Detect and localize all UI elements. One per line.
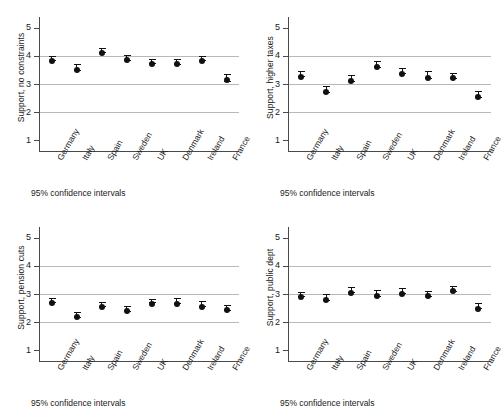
x-axis-category-label: France [481, 134, 503, 162]
plot-area: 12345GermanyItalySpainSwedenUKDenmarkIre… [288, 230, 491, 358]
point-marker [174, 61, 180, 67]
gridline [288, 294, 491, 295]
panel-support-pension-cuts: Support, pension cuts 12345GermanyItalyS… [0, 210, 248, 420]
point-marker [323, 297, 329, 303]
x-axis-category-label: Germany [55, 127, 81, 162]
point-marker [475, 306, 481, 312]
gridline [288, 322, 491, 323]
gridline [288, 56, 491, 57]
error-bar-cap-upper [74, 312, 81, 313]
error-bar-cap-upper [399, 68, 406, 69]
error-bar-cap-upper [475, 91, 482, 92]
point-marker [174, 301, 180, 307]
y-tick-mark [34, 112, 39, 113]
error-bar-cap-upper [149, 59, 156, 60]
error-bar-cap-upper [199, 56, 206, 57]
x-axis-category-label: Denmark [180, 337, 206, 372]
y-tick-label: 5 [266, 233, 280, 242]
y-tick-label: 3 [17, 290, 31, 299]
y-tick-mark [283, 140, 288, 141]
x-axis-category-label: Sweden [130, 130, 154, 162]
y-tick-mark [283, 322, 288, 323]
y-tick-label: 4 [17, 51, 31, 60]
point-marker [199, 58, 205, 64]
y-axis-line [39, 17, 40, 151]
x-axis-category-label: Sweden [380, 130, 404, 162]
y-tick-mark [34, 28, 39, 29]
plot-area: 12345GermanyItalySpainSwedenUKDenmarkIre… [288, 20, 491, 148]
panel-support-no-constraints: Support, no constraints 12345GermanyItal… [0, 0, 248, 210]
point-marker [224, 77, 230, 83]
y-tick-label: 1 [266, 346, 280, 355]
error-bar-cap-upper [99, 48, 106, 49]
panel-caption: 95% confidence intervals [31, 188, 126, 199]
point-marker [348, 78, 354, 84]
point-marker [149, 301, 155, 307]
y-tick-mark [34, 56, 39, 57]
point-marker [124, 308, 130, 314]
x-axis-category-label: UK [155, 147, 170, 162]
x-axis-category-label: Italy [80, 353, 96, 372]
y-tick-label: 2 [266, 318, 280, 327]
error-bar-cap-upper [323, 86, 330, 87]
y-tick-mark [34, 266, 39, 267]
point-marker [399, 71, 405, 77]
error-bar-cap-upper [174, 298, 181, 299]
error-bar-cap-upper [298, 71, 305, 72]
error-bar-cap-upper [374, 61, 381, 62]
panel-caption: 95% confidence intervals [280, 398, 375, 409]
x-axis-category-label: Italy [329, 353, 345, 372]
gridline [39, 294, 239, 295]
error-bar-cap-upper [425, 291, 432, 292]
x-axis-category-label: Denmark [180, 127, 206, 162]
x-axis-category-label: Germany [304, 127, 330, 162]
point-marker [199, 304, 205, 310]
y-tick-mark [283, 56, 288, 57]
point-marker [124, 57, 130, 63]
y-tick-mark [283, 350, 288, 351]
x-axis-category-label: UK [405, 357, 420, 372]
error-bar-cap-upper [224, 74, 231, 75]
point-marker [450, 75, 456, 81]
x-axis-category-label: Ireland [456, 344, 478, 372]
panel-caption: 95% confidence intervals [280, 188, 375, 199]
point-marker [49, 300, 55, 306]
x-axis-category-label: Sweden [130, 340, 154, 372]
x-axis-category-label: Ireland [456, 134, 478, 162]
y-tick-mark [34, 84, 39, 85]
point-marker [99, 304, 105, 310]
x-axis-category-label: UK [155, 357, 170, 372]
point-marker [49, 58, 55, 64]
gridline [39, 112, 239, 113]
error-bar-cap-upper [374, 290, 381, 291]
point-marker [298, 294, 304, 300]
gridline [288, 266, 491, 267]
y-tick-label: 1 [17, 346, 31, 355]
x-axis-category-label: UK [405, 147, 420, 162]
y-tick-mark [283, 28, 288, 29]
point-marker [475, 94, 481, 100]
x-axis-category-label: Denmark [431, 337, 457, 372]
y-tick-mark [283, 112, 288, 113]
plot-area: 12345GermanyItalySpainSwedenUKDenmarkIre… [39, 20, 239, 148]
y-tick-mark [34, 140, 39, 141]
y-tick-label: 1 [266, 136, 280, 145]
x-axis-category-label: France [481, 344, 503, 372]
y-tick-label: 4 [17, 261, 31, 270]
error-bar-cap-upper [298, 292, 305, 293]
gridline [288, 84, 491, 85]
y-axis-line [288, 17, 289, 151]
y-tick-mark [283, 84, 288, 85]
point-marker [399, 291, 405, 297]
x-axis-category-label: Ireland [205, 344, 227, 372]
point-marker [298, 74, 304, 80]
point-marker [74, 67, 80, 73]
gridline [39, 56, 239, 57]
point-marker [425, 293, 431, 299]
panel-support-public-dept: Support, public dept 12345GermanyItalySp… [249, 210, 497, 420]
error-bar-cap-upper [425, 71, 432, 72]
x-axis-category-label: Ireland [205, 134, 227, 162]
y-axis-line [39, 227, 40, 361]
point-marker [323, 89, 329, 95]
error-bar-cap-upper [399, 288, 406, 289]
